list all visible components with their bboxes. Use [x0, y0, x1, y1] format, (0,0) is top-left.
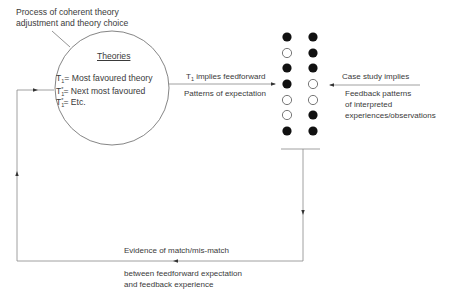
feedforward-label: T1 implies feedforward [186, 71, 266, 85]
feedback-below-2: of interpreted [345, 99, 392, 110]
filled-dot-icon [282, 126, 291, 135]
feedback-arrowhead-icon [329, 83, 334, 86]
theories-title: Theories [97, 51, 130, 62]
theory-item-3: T1*= Etc. [56, 95, 86, 111]
filled-dot-icon [282, 79, 291, 88]
open-dot-icon [308, 79, 317, 88]
feedforward-below-label: Patterns of expectation [184, 88, 266, 99]
loop-down-arrowhead-icon [301, 210, 304, 215]
open-dot-icon [282, 110, 291, 119]
loop-left-arrowhead-icon [173, 259, 178, 262]
pattern-dots [282, 32, 317, 135]
filled-dot-icon [282, 63, 291, 72]
filled-dot-icon [308, 48, 317, 57]
filled-dot-icon [308, 32, 317, 41]
annotation-line-2: adjustment and theory choice [16, 18, 128, 29]
feedforward-arrowhead-icon [271, 82, 276, 85]
loop-above-label: Evidence of match/mis-match [124, 245, 229, 256]
open-dot-icon [282, 95, 291, 104]
feedback-below-1: Feedback patterns [345, 88, 411, 99]
filled-dot-icon [308, 63, 317, 72]
feedforward-text: implies feedforward [194, 72, 266, 81]
filled-dot-icon [308, 110, 317, 119]
open-dot-icon [308, 95, 317, 104]
feedback-label: Case study implies [342, 71, 409, 82]
loop-right-arrowhead-icon [33, 88, 38, 91]
theory-text: = Most favoured theory [64, 73, 152, 83]
loop-up-arrowhead-icon [15, 171, 18, 176]
open-dot-icon [282, 48, 291, 57]
annotation-leader-line [52, 31, 70, 47]
annotation-line-1: Process of coherent theory [16, 7, 119, 18]
loop-below-2: and feedback experience [124, 279, 213, 290]
feedback-below-3: experiences/observations [345, 110, 436, 121]
loop-below-1: between feedforward expectation [124, 268, 242, 279]
theory-text: = Etc. [63, 97, 85, 107]
filled-dot-icon [308, 126, 317, 135]
filled-dot-icon [282, 32, 291, 41]
evaluation-loop-line [17, 90, 303, 261]
